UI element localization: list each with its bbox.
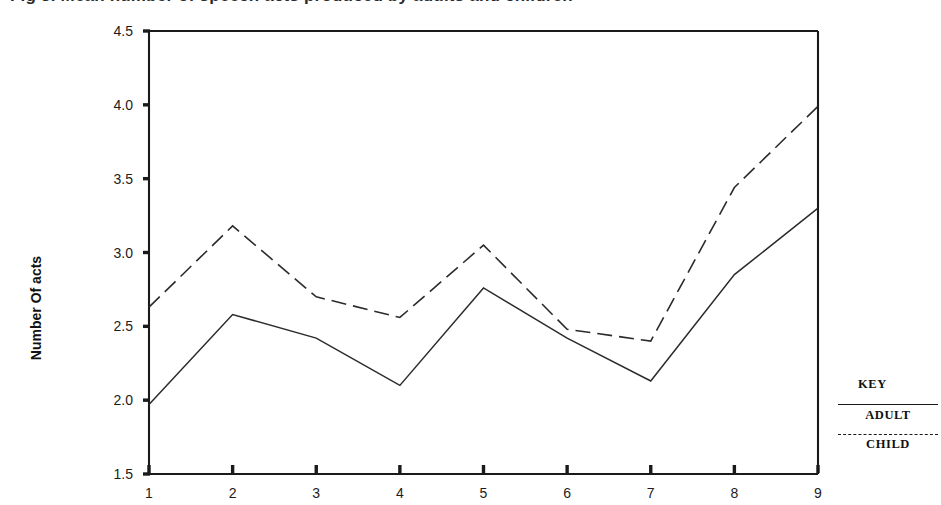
- axis-frame: [149, 31, 818, 474]
- legend-label-adult: ADULT: [838, 408, 938, 423]
- x-tick-label: 5: [480, 485, 488, 501]
- x-tick-label: 9: [814, 485, 822, 501]
- x-tick-label: 6: [563, 485, 571, 501]
- x-tick-label: 7: [647, 485, 655, 501]
- line-chart-plot: 4.54.03.53.02.52.01.5 123456789: [0, 0, 941, 505]
- chart-page: Fig 3. Mean number of speech acts produc…: [0, 0, 941, 505]
- axis-tick-marks: [143, 31, 818, 474]
- y-tick-label: 2.0: [114, 392, 134, 408]
- x-axis-tick-labels: 123456789: [145, 485, 822, 501]
- x-tick-label: 3: [312, 485, 320, 501]
- y-tick-label: 4.0: [114, 97, 134, 113]
- y-tick-label: 4.5: [114, 23, 134, 39]
- legend-swatch-adult: [838, 404, 938, 405]
- x-tick-label: 4: [396, 485, 404, 501]
- y-tick-label: 3.5: [114, 171, 134, 187]
- legend-key-title: KEY: [858, 377, 938, 392]
- legend-swatch-child: [838, 434, 938, 435]
- chart-legend: KEY ADULT CHILD: [838, 377, 938, 452]
- series-line-adult: [149, 208, 818, 404]
- y-tick-label: 1.5: [114, 466, 134, 482]
- legend-label-child: CHILD: [838, 437, 938, 452]
- x-tick-label: 1: [145, 485, 153, 501]
- x-tick-label: 8: [730, 485, 738, 501]
- y-axis-tick-labels: 4.54.03.53.02.52.01.5: [114, 23, 134, 482]
- x-tick-label: 2: [229, 485, 237, 501]
- series-line-child: [149, 106, 818, 341]
- y-tick-label: 3.0: [114, 245, 134, 261]
- y-tick-label: 2.5: [114, 318, 134, 334]
